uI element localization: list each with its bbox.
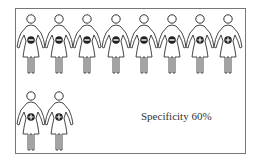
female-figure-icon (157, 13, 187, 75)
female-figure-minus (101, 13, 131, 75)
female-figure-icon (129, 13, 159, 75)
female-figure-minus (16, 13, 46, 75)
female-figure-plus (185, 13, 215, 75)
female-figure-icon (44, 13, 74, 75)
female-figure-minus (129, 13, 159, 75)
female-figure-minus (44, 13, 74, 75)
female-figure-icon (16, 13, 46, 75)
female-figure-icon (101, 13, 131, 75)
female-figure-icon (72, 13, 102, 75)
female-figure-icon (44, 90, 74, 152)
female-figure-icon (185, 13, 215, 75)
female-figure-minus (72, 13, 102, 75)
female-figure-icon (213, 13, 243, 75)
female-figure-icon (16, 90, 46, 152)
female-figure-minus (157, 13, 187, 75)
female-figure-plus (16, 90, 46, 152)
female-figure-plus (213, 13, 243, 75)
female-figure-plus (44, 90, 74, 152)
specificity-label: Specificity 60% (141, 110, 212, 122)
